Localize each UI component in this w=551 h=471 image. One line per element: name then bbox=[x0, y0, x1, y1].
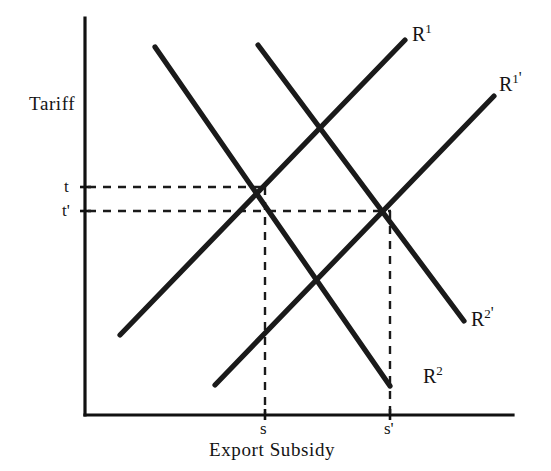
y-tick-label-t-prime: t' bbox=[62, 202, 70, 219]
curve-label-r1-prime-mark: ' bbox=[519, 69, 522, 86]
reaction-curve-group bbox=[120, 40, 494, 386]
curve-label-r1-prime: R1' bbox=[499, 74, 522, 94]
curve-label-r1: R1 bbox=[412, 24, 432, 44]
curve-label-r2-sup: 2 bbox=[436, 363, 443, 378]
x-tick-label-s-prime: s' bbox=[384, 420, 394, 437]
curve-r2 bbox=[155, 47, 390, 386]
x-tick-label-s: s bbox=[260, 420, 267, 437]
curve-label-r2-prime-base: R bbox=[471, 308, 484, 330]
curve-label-r2-base: R bbox=[423, 365, 436, 387]
figure-canvas bbox=[0, 0, 551, 471]
curve-label-r2-prime-mark: ' bbox=[491, 304, 494, 321]
tick-group bbox=[80, 187, 390, 420]
y-tick-label-t: t bbox=[64, 178, 69, 195]
curve-r1-prime bbox=[215, 96, 494, 385]
axis-group bbox=[85, 18, 513, 415]
curve-label-r2-prime: R2' bbox=[471, 309, 494, 329]
curve-label-r1-sup: 1 bbox=[425, 21, 432, 36]
curve-label-r1-base: R bbox=[412, 23, 425, 45]
y-axis-title: Tariff bbox=[29, 94, 75, 113]
reaction-function-figure: R1 R1' R2' R2 Tariff Export Subsidy t t'… bbox=[0, 0, 551, 471]
x-axis-title: Export Subsidy bbox=[209, 440, 335, 459]
curve-label-r2: R2 bbox=[423, 366, 443, 386]
guide-group bbox=[88, 187, 391, 413]
curve-label-r1-prime-base: R bbox=[499, 73, 512, 95]
